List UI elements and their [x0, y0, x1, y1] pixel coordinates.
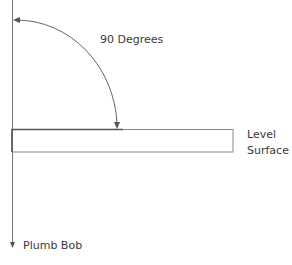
arc-arrow-left-icon — [13, 17, 20, 23]
angle-label: 90 Degrees — [100, 33, 164, 46]
arc-arrow-down-icon — [114, 122, 120, 129]
plumb-level-diagram: 90 Degrees Level Surface Plumb Bob — [0, 0, 292, 265]
level-surface — [12, 130, 233, 153]
plumb-bob-label: Plumb Bob — [23, 239, 82, 252]
surface-label-line2: Surface — [247, 144, 289, 157]
surface-label-line1: Level — [247, 128, 276, 141]
plumb-arrow-icon — [10, 242, 15, 248]
